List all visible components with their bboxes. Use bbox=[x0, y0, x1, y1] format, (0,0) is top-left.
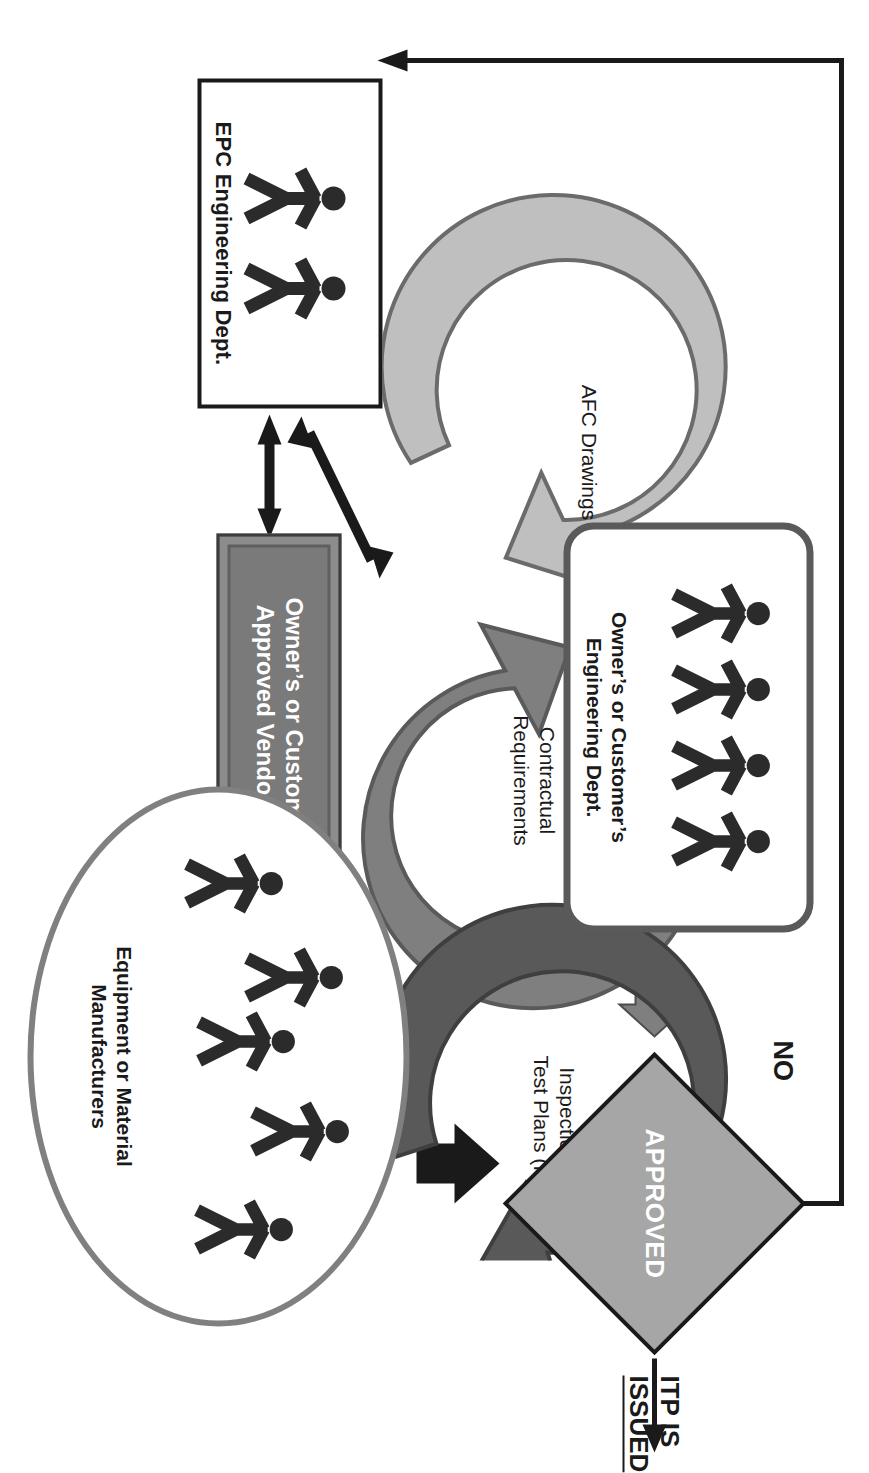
diagram-stage: AFC Drawings Contractual Requirements In… bbox=[0, 0, 869, 1473]
person-icon bbox=[242, 166, 346, 230]
person-icon bbox=[193, 1010, 297, 1072]
node-label-epc-engineering-dept: EPC Engineering Dept. bbox=[209, 82, 235, 404]
node-decision-approved[interactable]: APPROVED bbox=[499, 1048, 809, 1358]
manufacturers-label-line2: Manufacturers bbox=[85, 792, 111, 1320]
person-icon bbox=[668, 582, 772, 644]
node-epc-engineering-dept[interactable]: EPC Engineering Dept. bbox=[197, 78, 382, 408]
double-headed-arrow-epc-vendor bbox=[257, 414, 281, 538]
owner-eng-label-line2: Engineering Dept. bbox=[580, 529, 605, 925]
node-label-owner-engineering-dept: Owner’s or Customer’s Engineering Dept. bbox=[580, 529, 630, 925]
person-icon bbox=[241, 946, 345, 1008]
person-icon bbox=[191, 1198, 295, 1260]
cycle-label-contractual-line2: Requirements bbox=[508, 675, 534, 885]
person-icon bbox=[668, 810, 772, 872]
person-icon bbox=[247, 1100, 351, 1162]
outcome-itp-is-issued: ITP IS ISSUED bbox=[622, 1375, 684, 1473]
cycle-label-contractual: Contractual Requirements bbox=[508, 675, 559, 885]
epc-people-group bbox=[242, 82, 352, 404]
cycle-label-contractual-line1: Contractual bbox=[533, 675, 559, 885]
diagram-page: AFC Drawings Contractual Requirements In… bbox=[0, 0, 869, 1473]
node-label-equipment-material-manufacturers: Equipment or Material Manufacturers bbox=[85, 792, 136, 1320]
decision-no-branch-label: NO bbox=[766, 1040, 797, 1081]
manufacturers-label-line1: Equipment or Material bbox=[111, 792, 137, 1320]
person-icon bbox=[668, 734, 772, 796]
node-owner-engineering-dept[interactable]: Owner’s or Customer’s Engineering Dept. bbox=[563, 522, 813, 932]
owner-eng-label-line1: Owner’s or Customer’s bbox=[605, 529, 630, 925]
cycle-label-afc-text: AFC Drawings bbox=[577, 384, 600, 519]
node-equipment-material-manufacturers[interactable]: Equipment or Material Manufacturers bbox=[27, 786, 409, 1326]
decision-label: APPROVED bbox=[499, 1048, 809, 1358]
owner-eng-people-group bbox=[668, 529, 788, 925]
person-icon bbox=[181, 852, 285, 914]
manufacturers-people-group bbox=[189, 838, 359, 1274]
person-icon bbox=[668, 658, 772, 720]
person-icon bbox=[242, 256, 346, 320]
